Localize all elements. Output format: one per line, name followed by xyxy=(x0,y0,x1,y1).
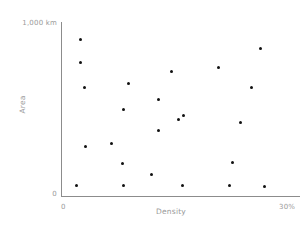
data-point xyxy=(79,38,82,41)
y-axis-min-tick-label: 0 xyxy=(52,190,57,199)
data-point xyxy=(228,184,231,187)
scatter-chart: 1,000 km 0 0 30% Density Area xyxy=(0,0,308,228)
data-point xyxy=(239,121,242,124)
data-point xyxy=(110,142,113,145)
data-point xyxy=(157,98,160,101)
data-point xyxy=(84,145,87,148)
data-point xyxy=(259,47,262,50)
x-axis-line xyxy=(61,196,300,197)
data-point xyxy=(250,86,253,89)
y-axis-title: Area xyxy=(18,75,27,135)
data-point xyxy=(177,118,180,121)
data-point xyxy=(79,61,82,64)
data-point xyxy=(75,184,78,187)
data-point xyxy=(127,82,130,85)
plot-area xyxy=(61,22,300,196)
data-point xyxy=(263,185,266,188)
data-point xyxy=(231,161,234,164)
data-point xyxy=(83,86,86,89)
data-point xyxy=(157,129,160,132)
x-axis-title: Density xyxy=(0,207,308,216)
data-point xyxy=(122,184,125,187)
data-point xyxy=(121,162,124,165)
data-point xyxy=(217,66,220,69)
data-point xyxy=(122,108,125,111)
y-axis-max-tick-label: 1,000 km xyxy=(22,19,57,28)
data-point xyxy=(181,184,184,187)
data-point xyxy=(182,114,185,117)
data-point xyxy=(170,70,173,73)
data-point xyxy=(150,173,153,176)
